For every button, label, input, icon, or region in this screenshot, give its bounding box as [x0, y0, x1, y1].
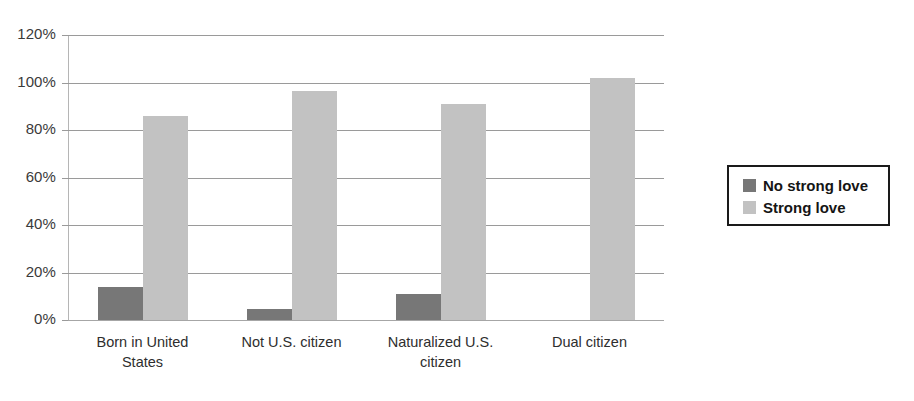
bar-strong-love	[143, 116, 188, 320]
bar-no-strong-love	[396, 294, 441, 320]
legend-item: Strong love	[743, 196, 888, 218]
bar-no-strong-love	[247, 309, 292, 320]
legend-label: Strong love	[763, 199, 846, 216]
x-axis-label: Naturalized U.S. citizen	[366, 332, 515, 372]
y-tick-label: 120%	[0, 25, 56, 42]
bar-strong-love	[292, 91, 337, 320]
y-tick-label: 80%	[0, 120, 56, 137]
legend-swatch-icon	[743, 201, 756, 214]
bar-strong-love	[441, 104, 486, 320]
tick-mark-0	[62, 320, 68, 321]
x-axis-label: Dual citizen	[515, 332, 664, 352]
legend-item: No strong love	[743, 174, 888, 196]
bar-no-strong-love	[98, 287, 143, 320]
y-tick-label: 60%	[0, 168, 56, 185]
chart-screenshot: 120%100%80%60%40%20%0% Born in United St…	[0, 0, 914, 401]
chart-legend: No strong loveStrong love	[727, 165, 890, 226]
y-tick-label: 20%	[0, 263, 56, 280]
gridline-0	[68, 320, 664, 321]
y-tick-label: 0%	[0, 310, 56, 327]
bar-strong-love	[590, 78, 635, 320]
legend-swatch-icon	[743, 179, 756, 192]
y-tick-label: 40%	[0, 215, 56, 232]
plot-area	[68, 35, 664, 320]
y-tick-label: 100%	[0, 73, 56, 90]
x-axis-label: Not U.S. citizen	[217, 332, 366, 352]
legend-label: No strong love	[763, 177, 868, 194]
x-axis-label: Born in United States	[68, 332, 217, 372]
